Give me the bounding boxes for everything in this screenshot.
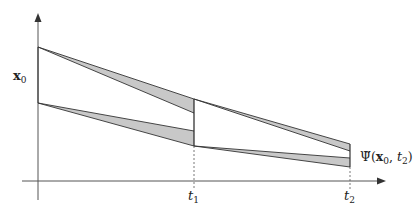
x0-main: x (13, 68, 21, 83)
diagram-canvas (0, 0, 420, 214)
t1-sub: 1 (193, 195, 199, 205)
upper-band-1 (38, 47, 194, 113)
y-axis-arrow-icon (35, 13, 42, 22)
psi-close: ) (408, 149, 413, 164)
x-axis-arrow-icon (377, 178, 386, 185)
lower-band-2 (194, 146, 350, 167)
t2-label: t2 (344, 189, 355, 205)
t2-sub: 2 (349, 195, 355, 205)
t1-label: t1 (188, 189, 199, 205)
psi-sep: , (389, 149, 397, 164)
axes (22, 13, 386, 200)
psi-label: Ψ̃(x0, t2) (360, 151, 413, 166)
lower-band-1 (38, 103, 194, 146)
psi-open: Ψ̃( (360, 149, 376, 164)
y-axis-label-x0: x0 (13, 69, 27, 85)
x0-sub: 0 (21, 75, 27, 85)
upper-band-2 (194, 99, 350, 151)
